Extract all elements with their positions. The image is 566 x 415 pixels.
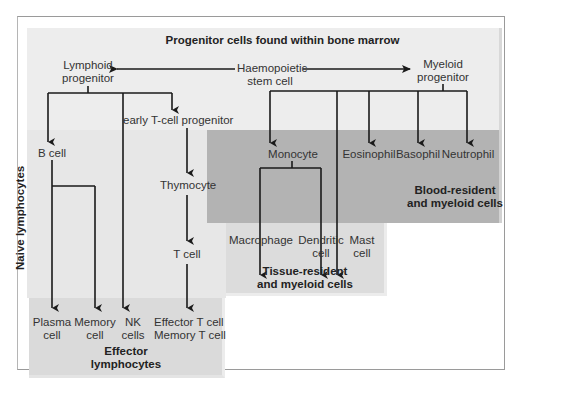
node-label: cell bbox=[74, 329, 116, 342]
node-eosinophil: Eosinophil bbox=[342, 148, 396, 161]
diagram-title: Progenitor cells found within bone marro… bbox=[160, 34, 405, 47]
node-monocyte: Monocyte bbox=[264, 148, 322, 161]
region-label-naive-lymphocytes: Naive lymphocytes bbox=[14, 166, 26, 270]
region-label-effector-lymphocytes: Effector lymphocytes bbox=[90, 345, 162, 371]
node-effector-memory-t-cell: Effector T cell Memory T cell bbox=[154, 316, 220, 342]
node-label: progenitor bbox=[414, 71, 472, 84]
region-label-line: Effector bbox=[90, 345, 162, 358]
node-label: cells bbox=[120, 329, 146, 342]
node-label: cell bbox=[347, 247, 377, 260]
region-label-line: lymphocytes bbox=[90, 358, 162, 371]
node-label: Memory bbox=[74, 316, 116, 329]
node-mast-cell: Mast cell bbox=[347, 234, 377, 260]
node-plasma-cell: Plasma cell bbox=[32, 316, 72, 342]
node-label: cell bbox=[32, 329, 72, 342]
node-lymphoid-progenitor: Lymphoid progenitor bbox=[58, 59, 118, 85]
node-label: stem cell bbox=[237, 75, 303, 88]
node-memory-cell: Memory cell bbox=[74, 316, 116, 342]
region-label-tissue-resident: Tissue-resident and myeloid cells bbox=[250, 265, 360, 291]
node-label: Myeloid bbox=[414, 58, 472, 71]
node-haemopoietic-stem-cell: Haemopoietic stem cell bbox=[237, 62, 303, 88]
node-label: NK bbox=[120, 316, 146, 329]
node-myeloid-progenitor: Myeloid progenitor bbox=[414, 58, 472, 84]
region-label-blood-resident: Blood-resident and myeloid cells bbox=[405, 184, 505, 210]
node-dendritic-cell: Dendritic cell bbox=[298, 234, 344, 260]
node-nk-cells: NK cells bbox=[120, 316, 146, 342]
node-neutrophil: Neutrophil bbox=[440, 148, 496, 161]
node-basophil: Basophil bbox=[394, 148, 442, 161]
node-label: cell bbox=[298, 247, 344, 260]
region-label-line: Blood-resident bbox=[405, 184, 505, 197]
node-macrophage: Macrophage bbox=[229, 234, 289, 247]
region-label-line: Tissue-resident bbox=[250, 265, 360, 278]
node-thymocyte: Thymocyte bbox=[160, 179, 216, 192]
node-label: progenitor bbox=[58, 72, 118, 85]
node-label: Memory T cell bbox=[154, 329, 220, 342]
node-label: Effector T cell bbox=[154, 316, 220, 329]
node-b-cell: B cell bbox=[36, 147, 68, 160]
node-label: Plasma bbox=[32, 316, 72, 329]
node-label: Haemopoietic bbox=[237, 62, 303, 75]
node-label: Dendritic bbox=[298, 234, 344, 247]
node-label: Lymphoid bbox=[58, 59, 118, 72]
region-label-line: and myeloid cells bbox=[250, 278, 360, 291]
node-early-t-cell-progenitor: early T-cell progenitor bbox=[123, 114, 223, 127]
node-t-cell: T cell bbox=[172, 248, 202, 261]
node-label: Mast bbox=[347, 234, 377, 247]
region-label-line: and myeloid cells bbox=[405, 197, 505, 210]
